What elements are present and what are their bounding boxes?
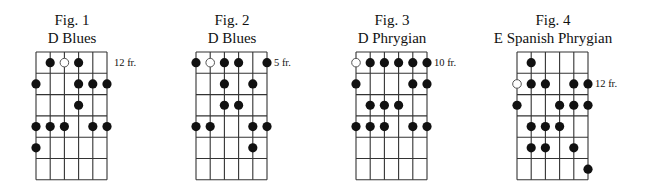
scale-note-dot	[408, 79, 417, 88]
scale-note-dot	[527, 58, 536, 67]
root-note-open-dot	[352, 58, 361, 67]
fretboard-grid	[512, 52, 592, 180]
scale-note-dot	[422, 122, 431, 131]
scale-note-dot	[248, 143, 257, 152]
fretboard-grid	[191, 52, 271, 180]
scale-note-dot	[541, 143, 550, 152]
scale-note-dot	[220, 79, 229, 88]
scale-note-dot	[74, 58, 83, 67]
fret-position-label: 12 fr.	[114, 57, 136, 69]
scale-note-dot	[569, 101, 578, 110]
scale-note-dot	[74, 79, 83, 88]
scale-note-dot	[583, 165, 592, 174]
scale-note-dot	[380, 101, 389, 110]
scale-note-dot	[569, 143, 578, 152]
fret-position-label: 5 fr.	[274, 57, 291, 69]
scale-note-dot	[394, 58, 403, 67]
scale-note-dot	[569, 79, 578, 88]
scale-note-dot	[234, 101, 243, 110]
scale-note-dot	[191, 122, 200, 131]
scale-note-dot	[555, 101, 564, 110]
scale-note-dot	[422, 58, 431, 67]
scale-note-dot	[394, 101, 403, 110]
fret-position-label: 12 fr.	[595, 78, 617, 90]
scale-note-dot	[191, 58, 200, 67]
fretboard-grid	[31, 52, 111, 180]
scale-note-dot	[234, 58, 243, 67]
root-note-open-dot	[206, 58, 215, 67]
scale-note-dot	[527, 122, 536, 131]
scale-note-dot	[220, 58, 229, 67]
scale-note-dot	[422, 79, 431, 88]
scale-note-dot	[31, 143, 40, 152]
scale-note-dot	[380, 122, 389, 131]
scale-note-dot	[366, 58, 375, 67]
fretboard-diagrams	[0, 0, 657, 188]
scale-note-dot	[512, 101, 521, 110]
scale-note-dot	[248, 122, 257, 131]
scale-note-dot	[541, 122, 550, 131]
scale-note-dot	[220, 101, 229, 110]
scale-note-dot	[74, 101, 83, 110]
scale-note-dot	[380, 58, 389, 67]
scale-note-dot	[102, 122, 111, 131]
fretboard-grid	[351, 52, 431, 180]
scale-note-dot	[248, 79, 257, 88]
scale-note-dot	[366, 101, 375, 110]
scale-note-dot	[351, 79, 360, 88]
scale-note-dot	[541, 79, 550, 88]
scale-note-dot	[583, 79, 592, 88]
scale-note-dot	[46, 122, 55, 131]
scale-note-dot	[206, 122, 215, 131]
scale-note-dot	[60, 122, 69, 131]
scale-note-dot	[262, 122, 271, 131]
scale-note-dot	[31, 122, 40, 131]
scale-note-dot	[583, 101, 592, 110]
scale-note-dot	[262, 58, 271, 67]
scale-note-dot	[351, 122, 360, 131]
scale-note-dot	[31, 79, 40, 88]
scale-note-dot	[408, 122, 417, 131]
scale-note-dot	[527, 143, 536, 152]
root-note-open-dot	[60, 58, 69, 67]
fret-position-label: 10 fr.	[434, 57, 456, 69]
scale-note-dot	[46, 58, 55, 67]
scale-note-dot	[527, 79, 536, 88]
scale-note-dot	[88, 79, 97, 88]
scale-note-dot	[366, 122, 375, 131]
scale-note-dot	[88, 122, 97, 131]
scale-note-dot	[555, 122, 564, 131]
scale-note-dot	[102, 79, 111, 88]
scale-note-dot	[408, 58, 417, 67]
root-note-open-dot	[513, 80, 522, 89]
